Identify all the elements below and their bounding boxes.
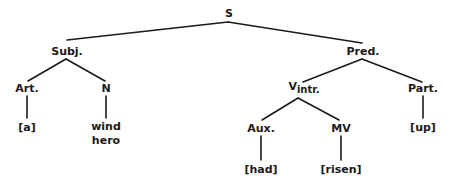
edge-subj-art: [28, 59, 66, 81]
leaf-noun-line2: hero: [91, 134, 121, 148]
node-particle-label: Part.: [408, 82, 438, 95]
edge-pred-part: [362, 59, 422, 82]
leaf-noun: wind hero: [91, 120, 121, 148]
node-verb-intransitive: Vintr.: [288, 80, 319, 93]
leaf-main-verb-text: [risen]: [320, 163, 361, 176]
leaf-main-verb: [risen]: [320, 163, 361, 177]
node-predicate-label: Pred.: [347, 45, 380, 58]
node-subject: Subj.: [51, 45, 83, 58]
node-s-label: S: [225, 7, 233, 20]
node-s: S: [225, 7, 233, 20]
node-noun-label: N: [101, 82, 110, 95]
leaf-article-text: [a]: [18, 121, 35, 134]
edge-subj-n: [66, 59, 105, 81]
node-main-verb-label: MV: [331, 122, 350, 135]
edge-pred-v: [303, 59, 362, 82]
node-noun: N: [101, 82, 110, 95]
edge-s-subj: [67, 22, 228, 40]
leaf-article: [a]: [18, 121, 35, 135]
leaf-particle-text: [up]: [410, 121, 436, 134]
leaf-noun-line1: wind: [91, 120, 121, 134]
node-auxiliary: Aux.: [247, 122, 275, 135]
edge-v-mv: [298, 98, 339, 120]
node-article-label: Art.: [15, 82, 38, 95]
leaf-particle: [up]: [410, 121, 436, 135]
node-main-verb: MV: [331, 122, 350, 135]
node-auxiliary-label: Aux.: [247, 122, 275, 135]
node-predicate: Pred.: [347, 45, 380, 58]
leaf-auxiliary-text: [had]: [244, 163, 277, 176]
node-verb-label: V: [288, 80, 297, 93]
node-particle: Part.: [408, 82, 438, 95]
node-verb-subscript: intr.: [297, 84, 320, 95]
edge-s-pred: [228, 22, 362, 43]
node-subject-label: Subj.: [51, 45, 83, 58]
edge-v-aux: [262, 98, 298, 120]
tree-edges: [0, 0, 455, 186]
syntax-tree-diagram: S Subj. Pred. Art. N Vintr. Part. Aux. M…: [0, 0, 455, 186]
node-article: Art.: [15, 82, 38, 95]
leaf-auxiliary: [had]: [244, 163, 277, 177]
